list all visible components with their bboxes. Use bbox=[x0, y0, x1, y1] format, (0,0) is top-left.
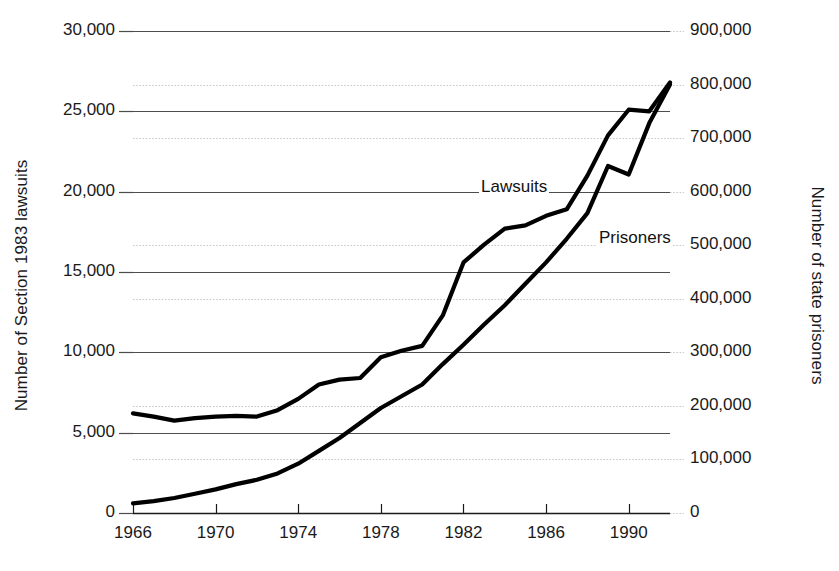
y-tick-label-left-5: 25,000 bbox=[10, 100, 115, 120]
x-tick-label-6: 1990 bbox=[589, 523, 669, 543]
y-tick-label-right-3: 300,000 bbox=[690, 341, 800, 361]
y-tick-label-left-6: 30,000 bbox=[10, 20, 115, 40]
y-tick-label-left-3: 15,000 bbox=[10, 261, 115, 281]
y-axis-title-left: Number of Section 1983 lawsuits bbox=[6, 0, 38, 571]
series-annotation-prisoners: Prisoners bbox=[597, 228, 673, 248]
y-tick-label-right-4: 400,000 bbox=[690, 288, 800, 308]
y-tick-label-left-4: 20,000 bbox=[10, 181, 115, 201]
y-tick-label-right-1: 100,000 bbox=[690, 448, 800, 468]
y-axis-title-right: Number of state prisoners bbox=[801, 0, 833, 571]
y-tick-label-left-1: 5,000 bbox=[10, 422, 115, 442]
chart-figure: Number of Section 1983 lawsuits Number o… bbox=[0, 0, 839, 571]
y-tick-label-left-0: 0 bbox=[10, 502, 115, 522]
x-tick-label-1: 1970 bbox=[176, 523, 256, 543]
x-tick-label-3: 1978 bbox=[341, 523, 421, 543]
series-line-lawsuits bbox=[133, 82, 670, 420]
x-tick-label-4: 1982 bbox=[423, 523, 503, 543]
x-tick-label-5: 1986 bbox=[506, 523, 586, 543]
x-tick-label-0: 1966 bbox=[93, 523, 173, 543]
y-tick-label-right-2: 200,000 bbox=[690, 395, 800, 415]
y-tick-label-right-5: 500,000 bbox=[690, 234, 800, 254]
series-annotation-lawsuits: Lawsuits bbox=[479, 177, 549, 197]
y-tick-label-right-9: 900,000 bbox=[690, 20, 800, 40]
y-tick-label-right-0: 0 bbox=[690, 502, 800, 522]
y-tick-label-right-8: 800,000 bbox=[690, 74, 800, 94]
x-tick-label-2: 1974 bbox=[258, 523, 338, 543]
y-tick-label-left-2: 10,000 bbox=[10, 341, 115, 361]
series-line-prisoners bbox=[133, 85, 670, 504]
y-tick-label-right-7: 700,000 bbox=[690, 127, 800, 147]
y-tick-label-right-6: 600,000 bbox=[690, 181, 800, 201]
